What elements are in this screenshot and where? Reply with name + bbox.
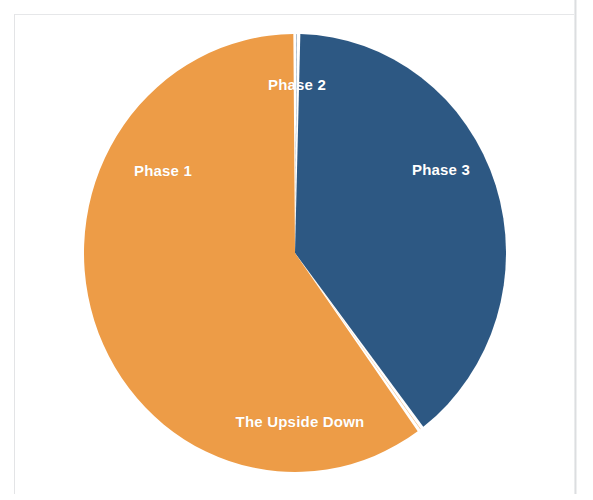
pie-chart: Phase 1 Phase 2 Phase 3 The Upside Down xyxy=(0,0,593,500)
screenshot-root: Phase 1 Phase 2 Phase 3 The Upside Down xyxy=(0,0,593,500)
pie-slice-group xyxy=(84,34,506,472)
pie-chart-svg xyxy=(0,0,593,500)
